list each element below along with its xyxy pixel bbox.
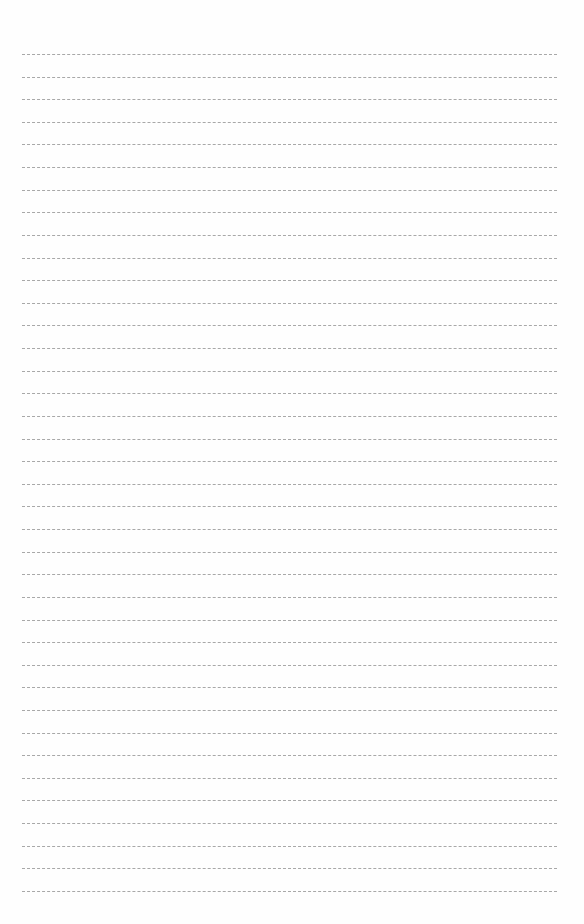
ruled-line <box>22 303 557 304</box>
ruled-line <box>22 371 557 372</box>
ruled-line <box>22 868 557 869</box>
ruled-line <box>22 235 557 236</box>
ruled-line <box>22 506 557 507</box>
ruled-line <box>22 710 557 711</box>
ruled-line <box>22 778 557 779</box>
ruled-line <box>22 484 557 485</box>
ruled-line <box>22 620 557 621</box>
ruled-line <box>22 687 557 688</box>
ruled-line <box>22 642 557 643</box>
ruled-line <box>22 800 557 801</box>
ruled-line <box>22 823 557 824</box>
ruled-line <box>22 891 557 892</box>
ruled-line <box>22 597 557 598</box>
ruled-line <box>22 280 557 281</box>
ruled-line <box>22 393 557 394</box>
ruled-line <box>22 416 557 417</box>
ruled-line <box>22 665 557 666</box>
ruled-line <box>22 77 557 78</box>
ruled-line <box>22 325 557 326</box>
ruled-line <box>22 99 557 100</box>
ruled-line <box>22 144 557 145</box>
ruled-line <box>22 733 557 734</box>
ruled-line <box>22 258 557 259</box>
ruled-line <box>22 574 557 575</box>
ruled-line <box>22 439 557 440</box>
lined-paper-page <box>0 0 584 924</box>
ruled-line <box>22 167 557 168</box>
ruled-line <box>22 461 557 462</box>
ruled-line <box>22 190 557 191</box>
ruled-line <box>22 755 557 756</box>
ruled-line <box>22 529 557 530</box>
ruled-line <box>22 348 557 349</box>
ruled-line <box>22 212 557 213</box>
ruled-line <box>22 54 557 55</box>
ruled-line <box>22 122 557 123</box>
ruled-line <box>22 846 557 847</box>
ruled-line <box>22 552 557 553</box>
